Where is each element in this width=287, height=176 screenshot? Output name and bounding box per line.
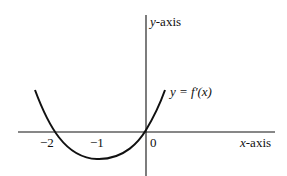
tick-label-neg1: −1 (90, 136, 104, 149)
y-axis-label: y-axis (150, 15, 181, 28)
derivative-graph: y-axis y = f′(x) x-axis −2 −1 0 (0, 0, 287, 176)
x-axis-rest: -axis (246, 135, 271, 150)
tick-label-zero: 0 (150, 136, 157, 149)
y-axis-rest: -axis (156, 14, 181, 29)
tick-label-neg2: −2 (40, 136, 54, 149)
x-axis-label: x-axis (240, 136, 271, 149)
curve-label: y = f′(x) (170, 85, 212, 98)
